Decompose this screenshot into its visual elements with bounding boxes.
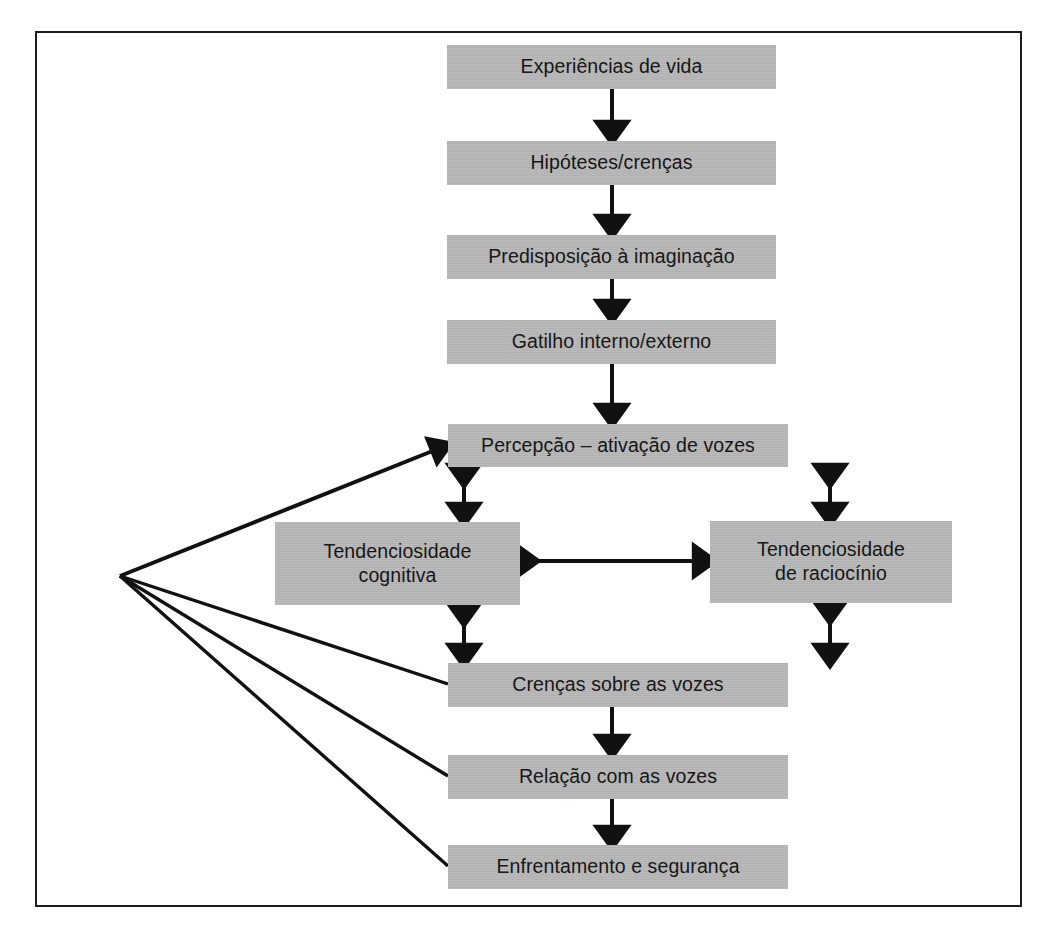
node-label: Relação com as vozes — [454, 765, 782, 789]
node-gatilho-interno-externo[interactable]: Gatilho interno/externo — [447, 320, 776, 364]
node-percepcao-ativacao-de-vozes[interactable]: Percepção – ativação de vozes — [448, 424, 788, 467]
node-relacao-com-as-vozes[interactable]: Relação com as vozes — [448, 755, 788, 799]
node-label: Crenças sobre as vozes — [454, 673, 782, 697]
node-label: Experiências de vida — [453, 55, 770, 79]
node-label: Enfrentamento e segurança — [454, 855, 782, 879]
node-label: Predisposição à imaginação — [453, 245, 770, 269]
node-hipoteses-crencas[interactable]: Hipóteses/crenças — [447, 141, 776, 185]
node-predisposicao-a-imaginacao[interactable]: Predisposição à imaginação — [447, 235, 776, 279]
node-tendenciosidade-de-raciocinio[interactable]: Tendenciosidade de raciocínio — [710, 521, 952, 603]
figure-root: Experiências de vida Hipóteses/crenças P… — [0, 0, 1052, 939]
node-crencas-sobre-as-vozes[interactable]: Crenças sobre as vozes — [448, 663, 788, 707]
node-label: Tendenciosidade de raciocínio — [716, 538, 946, 586]
node-experiencias-de-vida[interactable]: Experiências de vida — [447, 45, 776, 89]
node-label: Hipóteses/crenças — [453, 151, 770, 175]
node-enfrentamento-e-seguranca[interactable]: Enfrentamento e segurança — [448, 845, 788, 889]
node-label: Gatilho interno/externo — [453, 330, 770, 354]
node-label: Percepção – ativação de vozes — [454, 434, 782, 458]
node-label: Tendenciosidade cognitiva — [281, 540, 514, 588]
node-tendenciosidade-cognitiva[interactable]: Tendenciosidade cognitiva — [275, 522, 520, 605]
